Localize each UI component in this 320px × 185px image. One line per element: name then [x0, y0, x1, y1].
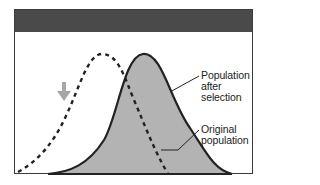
label-line: population — [201, 135, 248, 146]
down-arrow-icon — [57, 82, 71, 101]
after-selection-leader — [170, 76, 199, 92]
label-after-selection: Population after selection — [201, 70, 250, 103]
label-line: selection — [201, 92, 250, 103]
label-original: Original population — [201, 124, 248, 146]
